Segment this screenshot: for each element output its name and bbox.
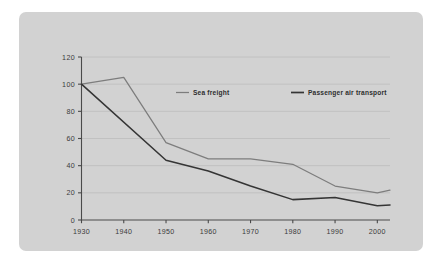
data-series-group: [82, 77, 391, 205]
chart-plot-area: 020406080100120 193019401950196019701980…: [0, 0, 441, 262]
y-axis-tick-label: 20: [66, 189, 75, 197]
x-axis-tick-label: 1970: [242, 228, 259, 236]
legend-label-2: Passenger air transport: [308, 89, 387, 97]
x-axis-tick-label: 1940: [115, 228, 132, 236]
x-axis-tick-label: 1950: [157, 228, 174, 236]
y-axis-tick-label: 40: [66, 162, 75, 170]
x-axis-tick-label: 2000: [369, 228, 386, 236]
x-axis-tick-label: 1990: [326, 228, 343, 236]
line-chart: 020406080100120 193019401950196019701980…: [0, 0, 441, 262]
x-axis-tick-label: 1930: [73, 228, 90, 236]
y-axis-tick-label: 0: [71, 217, 75, 225]
legend-label-1: Sea freight: [193, 89, 230, 97]
y-axis-tick-label: 120: [62, 54, 75, 62]
y-axis-tick-label: 60: [66, 135, 75, 143]
y-axis-tick-label: 100: [62, 81, 75, 89]
y-axis-labels-group: 020406080100120: [62, 54, 75, 225]
x-axis-labels-group: 19301940195019601970198019902000: [73, 228, 386, 236]
x-axis-tick-label: 1980: [284, 228, 301, 236]
chart-screenshot: 020406080100120 193019401950196019701980…: [0, 0, 441, 262]
x-axis-tick-label: 1960: [200, 228, 217, 236]
y-axis-tick-label: 80: [66, 108, 75, 116]
chart-legend: Sea freightPassenger air transport: [176, 89, 387, 97]
